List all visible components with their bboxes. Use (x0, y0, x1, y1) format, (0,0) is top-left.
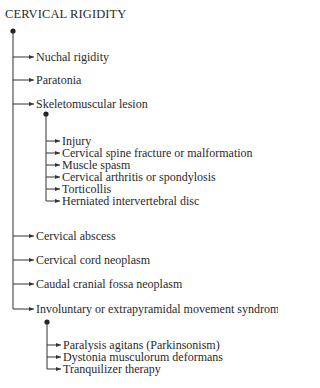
branch-cervical-abscess: Cervical abscess (36, 229, 116, 243)
branch-paratonia: Paratonia (36, 73, 81, 87)
branch-cervical-cord-neoplasm: Cervical cord neoplasm (36, 253, 150, 267)
branch-caudal-cranial-fossa-neoplasm: Caudal cranial fossa neoplasm (36, 277, 182, 291)
branch-involuntary-movement-syndrome: Involuntary or extrapyramidal movement s… (36, 302, 278, 316)
branch-nuchal-rigidity: Nuchal rigidity (36, 50, 109, 64)
leaf-herniated-disc: Herniated intervertebral disc (62, 194, 199, 208)
branch-skeletomuscular-lesion: Skeletomuscular lesion (36, 97, 148, 111)
leaf-tranquilizer-therapy: Tranquilizer therapy (63, 362, 161, 376)
